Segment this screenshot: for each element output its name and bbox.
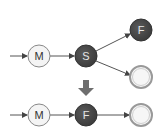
node-empty-bottom [130,104,152,126]
node-f-bottom: F [75,104,97,126]
edge-s-to-f [96,34,130,51]
node-label: S [82,50,89,62]
node-empty-top [130,66,152,88]
state-diagram: M S F M F [0,0,168,137]
node-label: M [34,109,43,121]
down-arrow-icon [78,80,94,96]
edge-s-to-empty [96,61,130,75]
node-label: F [83,109,90,121]
node-m-top: M [28,45,50,67]
node-f-top: F [130,19,152,41]
node-label: M [34,50,43,62]
node-label: F [138,24,145,36]
node-m-bottom: M [28,104,50,126]
node-s: S [75,45,97,67]
